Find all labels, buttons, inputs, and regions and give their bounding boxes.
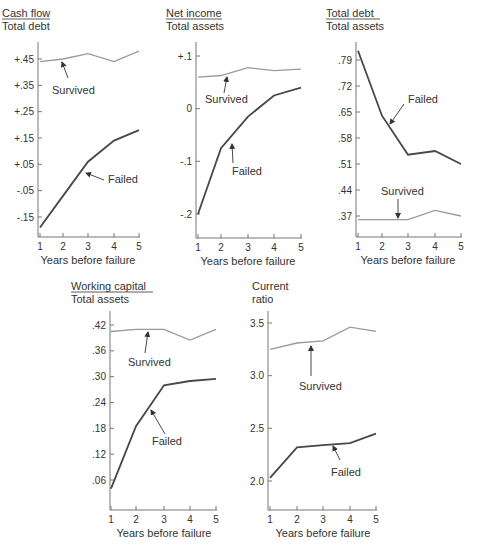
y-tick-label: .30 xyxy=(92,371,106,382)
y-tick-label: +.35 xyxy=(14,80,34,91)
failed-line xyxy=(358,51,461,164)
failed-label: Failed xyxy=(408,93,438,105)
x-tick-label: 2 xyxy=(218,242,224,253)
y-tick-label: +.1 xyxy=(178,51,193,62)
survived-label: Survived xyxy=(381,185,424,197)
x-axis-label: Years before failure xyxy=(361,254,456,266)
x-tick-label: 4 xyxy=(271,242,277,253)
x-axis-label: Years before failure xyxy=(276,527,371,539)
failed-line xyxy=(111,379,216,489)
chart-title-numerator: Working capital xyxy=(71,280,146,292)
chart-panel-4: Working capitalTotal assets.42.36.30.24.… xyxy=(71,280,219,539)
arrow-icon xyxy=(333,446,340,460)
x-tick-label: 2 xyxy=(133,514,139,525)
x-tick-label: 1 xyxy=(37,241,43,252)
y-tick-label: -.05 xyxy=(17,185,35,196)
y-tick-label: -.15 xyxy=(17,212,35,223)
x-tick-label: 1 xyxy=(355,241,361,252)
chart-title-denominator: Total assets xyxy=(71,293,130,305)
x-axis-label: Years before failure xyxy=(41,254,136,266)
failed-label: Failed xyxy=(232,165,262,177)
y-tick-label: .37 xyxy=(338,211,352,222)
x-tick-label: 5 xyxy=(373,514,379,525)
x-tick-label: 2 xyxy=(294,514,300,525)
x-tick-label: 3 xyxy=(161,514,167,525)
x-tick-label: 2 xyxy=(60,241,66,252)
x-tick-label: 3 xyxy=(405,241,411,252)
arrow-icon xyxy=(232,144,233,163)
y-tick-label: .24 xyxy=(92,397,106,408)
chart-panel-1: Cash flowTotal debt+.45+.35+.25+.15+.05-… xyxy=(2,7,142,266)
y-tick-label: .79 xyxy=(338,55,352,66)
y-tick-label: .06 xyxy=(92,475,106,486)
x-tick-label: 4 xyxy=(347,514,353,525)
y-tick-label: 2.5 xyxy=(250,423,264,434)
y-tick-label: +.25 xyxy=(14,106,34,117)
x-tick-label: 1 xyxy=(195,242,201,253)
failed-label: Failed xyxy=(331,466,361,478)
y-tick-label: .18 xyxy=(92,423,106,434)
y-tick-label: .51 xyxy=(338,159,352,170)
ratio-charts-figure: Cash flowTotal debt+.45+.35+.25+.15+.05-… xyxy=(0,0,479,557)
y-tick-label: +.45 xyxy=(14,54,34,65)
failed-label: Failed xyxy=(108,173,138,185)
survived-line xyxy=(358,210,461,219)
x-tick-label: 1 xyxy=(267,514,273,525)
arrow-icon xyxy=(62,62,68,78)
x-tick-label: 2 xyxy=(379,241,385,252)
arrow-icon xyxy=(390,104,404,124)
chart-panel-3: Total debtTotal assets.79.72.65.58.51.44… xyxy=(326,7,464,266)
survived-label: Survived xyxy=(299,380,342,392)
chart-title-numerator: Net income xyxy=(166,7,222,19)
x-tick-label: 1 xyxy=(108,514,114,525)
survived-label: Survived xyxy=(52,84,95,96)
failed-label: Failed xyxy=(152,435,182,447)
y-tick-label: .65 xyxy=(338,107,352,118)
chart-title-denominator: Total debt xyxy=(2,20,50,32)
x-tick-label: 3 xyxy=(320,514,326,525)
y-tick-label: +.15 xyxy=(14,133,34,144)
y-tick-label: 0 xyxy=(186,103,192,114)
x-tick-label: 4 xyxy=(432,241,438,252)
arrow-icon xyxy=(151,410,165,434)
arrow-icon xyxy=(86,173,104,180)
survived-line xyxy=(111,329,216,340)
chart-title-numerator: Cash flow xyxy=(2,7,50,19)
x-tick-label: 4 xyxy=(187,514,193,525)
chart-title-numerator: Total debt xyxy=(326,7,374,19)
x-axis-label: Years before failure xyxy=(201,255,296,267)
y-tick-label: +.05 xyxy=(14,159,34,170)
arrow-icon xyxy=(145,332,148,353)
chart-title-denominator: Total assets xyxy=(166,20,225,32)
y-tick-label: .44 xyxy=(338,185,352,196)
y-tick-label: .42 xyxy=(92,320,106,331)
y-tick-label: 3.5 xyxy=(250,318,264,329)
survived-line xyxy=(270,327,376,349)
x-tick-label: 4 xyxy=(111,241,117,252)
y-tick-label: .72 xyxy=(338,81,352,92)
x-axis-label: Years before failure xyxy=(117,527,212,539)
chart-title-denominator: ratio xyxy=(252,293,273,305)
x-tick-label: 5 xyxy=(298,242,304,253)
y-tick-label: -.1 xyxy=(180,156,192,167)
x-tick-label: 5 xyxy=(213,514,219,525)
survived-label: Survived xyxy=(128,356,171,368)
chart-panel-5: Currentratio3.53.02.52.012345Years befor… xyxy=(250,280,379,539)
x-tick-label: 3 xyxy=(245,242,251,253)
y-tick-label: .58 xyxy=(338,133,352,144)
chart-title-denominator: Total assets xyxy=(326,20,385,32)
arrow-icon xyxy=(224,77,227,93)
y-tick-label: 2.0 xyxy=(250,476,264,487)
y-tick-label: -.2 xyxy=(180,209,192,220)
x-tick-label: 5 xyxy=(458,241,464,252)
chart-panel-2: Net incomeTotal assets+.10-.1-.212345Yea… xyxy=(166,7,304,267)
survived-label: Survived xyxy=(205,93,248,105)
y-tick-label: .12 xyxy=(92,449,106,460)
x-tick-label: 5 xyxy=(136,241,142,252)
survived-line xyxy=(198,68,301,78)
survived-line xyxy=(40,51,139,62)
y-tick-label: 3.0 xyxy=(250,370,264,381)
chart-title-numerator: Current xyxy=(252,280,289,292)
failed-line xyxy=(198,88,301,214)
y-tick-label: .36 xyxy=(92,345,106,356)
